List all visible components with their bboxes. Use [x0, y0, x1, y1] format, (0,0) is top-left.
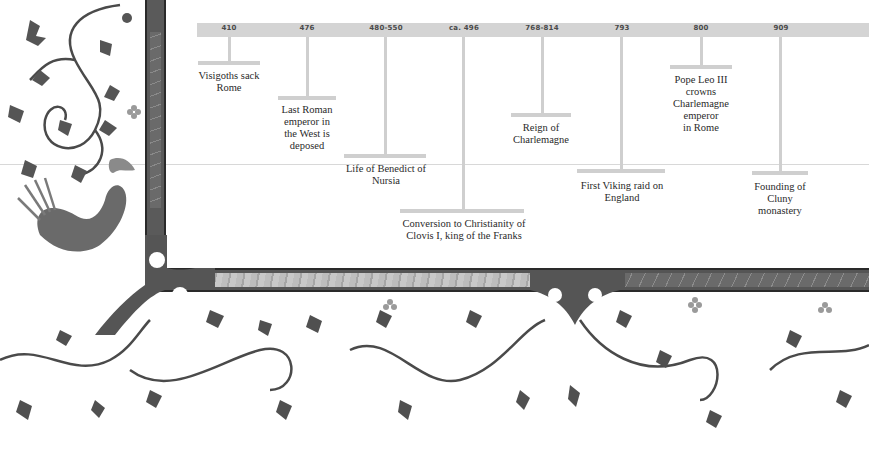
event-label: First Viking raid on England	[581, 180, 663, 204]
event-label: Pope Leo III crowns Charlemagne emperor …	[673, 74, 729, 134]
vertical-border-inset	[150, 32, 161, 208]
event-label: Last Roman emperor in the West is depose…	[281, 104, 332, 152]
event-label: Visigoths sack Rome	[199, 70, 260, 94]
event-bracket	[198, 61, 260, 65]
event-bracket	[577, 169, 665, 173]
event-bracket	[670, 65, 732, 69]
event-label: Reign of Charlemagne	[513, 122, 569, 146]
event-connector	[700, 37, 703, 67]
event-connector	[541, 37, 544, 115]
event-bracket	[400, 209, 524, 213]
event-date: 909	[751, 24, 811, 32]
event-connector	[462, 37, 465, 212]
vine-ornament-icon	[0, 0, 150, 260]
event-label: Conversion to Christianity of Clovis I, …	[403, 218, 526, 242]
event-connector	[384, 37, 387, 157]
event-bracket	[278, 96, 336, 100]
horizontal-border-inset-dark	[625, 273, 869, 287]
event-label: Founding of Cluny monastery	[754, 181, 806, 217]
event-date: 410	[199, 24, 259, 32]
event-connector	[620, 37, 623, 172]
event-connector	[779, 37, 782, 173]
event-bracket	[511, 113, 571, 117]
event-bracket	[344, 154, 426, 158]
event-date: ca. 496	[434, 24, 494, 32]
event-label: Life of Benedict of Nursia	[346, 163, 426, 187]
event-connector	[306, 37, 309, 98]
event-bracket	[752, 171, 808, 175]
event-date: 480-550	[356, 24, 416, 32]
bottom-vine-ornament-icon	[0, 290, 869, 453]
timeline-illustration: 410 Visigoths sack Rome 476 Last Roman e…	[0, 0, 869, 453]
event-date: 476	[277, 24, 337, 32]
event-date: 768-814	[512, 24, 572, 32]
event-date: 793	[592, 24, 652, 32]
horizontal-border-inset-light	[209, 273, 539, 287]
event-date: 800	[671, 24, 731, 32]
event-connector	[228, 37, 231, 62]
